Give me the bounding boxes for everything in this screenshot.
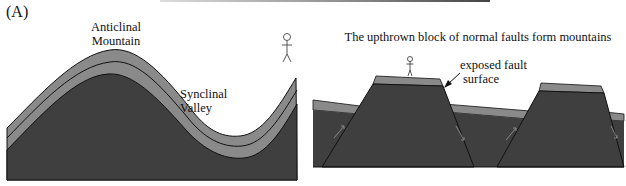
stick-figure-icon xyxy=(282,34,292,63)
syncline-label-line2: Valley xyxy=(180,101,244,115)
fault-label-line1: exposed fault xyxy=(460,58,550,72)
stick-figure-icon-2 xyxy=(407,57,414,77)
anticline-label-line2: Mountain xyxy=(78,34,154,48)
pointer-arrow-icon xyxy=(444,73,460,88)
fault-caption: The upthrown block of normal faults form… xyxy=(330,30,626,45)
anticline-label: Anticlinal Mountain xyxy=(78,20,154,48)
fault-label-line2: surface xyxy=(460,72,550,86)
fold-diagram xyxy=(7,34,297,181)
fault-surface-label: exposed fault surface xyxy=(460,58,550,86)
anticline-label-line1: Anticlinal xyxy=(78,20,154,34)
syncline-label: Synclinal Valley xyxy=(180,87,244,115)
syncline-label-line1: Synclinal xyxy=(180,87,244,101)
